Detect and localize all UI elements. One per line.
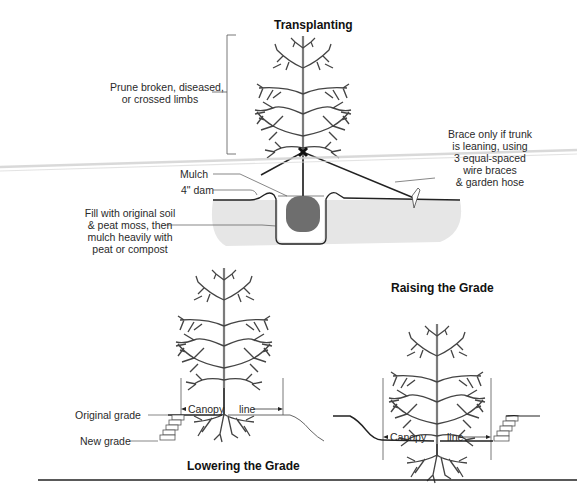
prune-label-line-1: Prune broken, diseased, xyxy=(110,81,210,93)
transplanting-title: Transplanting xyxy=(274,18,353,32)
brace-label-line-1: Brace only if trunk xyxy=(440,128,540,140)
prune-label: Prune broken, diseased, or crossed limbs xyxy=(110,81,210,105)
brace-label-line-3: 3 equal-spaced xyxy=(440,152,540,164)
brace-label-line-2: is leaning, using xyxy=(440,140,540,152)
brace-label-line-4: wire braces xyxy=(440,164,540,176)
fill-label: Fill with original soil & peat moss, the… xyxy=(80,207,180,255)
brace-label: Brace only if trunk is leaning, using 3 … xyxy=(440,128,540,188)
fill-label-line-3: mulch heavily with xyxy=(80,231,180,243)
original-grade-label: Original grade xyxy=(75,409,141,421)
raising-grade-illustration xyxy=(333,324,540,483)
dam-label: 4" dam xyxy=(181,184,214,196)
fill-label-line-1: Fill with original soil xyxy=(80,207,180,219)
new-grade-label: New grade xyxy=(80,435,131,447)
lowering-canopy-label: Canopy xyxy=(188,403,224,415)
prune-label-line-2: or crossed limbs xyxy=(110,93,210,105)
lowering-line-label: line xyxy=(239,403,255,415)
raising-title: Raising the Grade xyxy=(391,281,494,295)
mulch-label: Mulch xyxy=(180,168,208,180)
brace-label-line-5: & garden hose xyxy=(440,176,540,188)
lowering-title: Lowering the Grade xyxy=(187,459,300,473)
raising-line-label: line xyxy=(447,431,463,443)
tree-planting-diagram: Transplanting Prune broken, diseased, or… xyxy=(0,0,577,490)
raising-canopy-label: Canopy xyxy=(390,431,426,443)
lowering-grade-illustration xyxy=(130,268,324,442)
fill-label-line-2: & peat moss, then xyxy=(80,219,180,231)
fill-label-line-4: peat or compost xyxy=(80,243,180,255)
